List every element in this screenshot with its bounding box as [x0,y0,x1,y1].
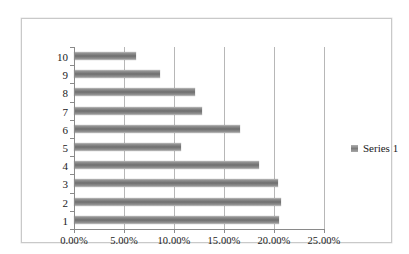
y-axis-tick [70,138,74,139]
x-axis-label-5: 5.00% [96,235,152,246]
bar-category-4[interactable] [74,161,259,169]
bar-category-10[interactable] [74,52,136,60]
x-axis-tick [274,229,275,233]
x-axis-label-10: 10.00% [146,235,202,246]
x-axis-label-15: 15.00% [196,235,252,246]
gridline-25 [324,47,325,229]
chart-frame: 10 9 8 7 6 5 4 3 2 1 0.00% 5.00% 10.00% … [21,18,392,243]
y-axis-tick [70,174,74,175]
y-axis-tick [70,193,74,194]
x-axis-label-25: 25.00% [296,235,352,246]
y-axis-label-8: 8 [42,87,68,99]
y-axis-label-1: 1 [42,215,68,227]
y-axis-tick [70,156,74,157]
y-axis-tick [70,83,74,84]
y-axis-label-5: 5 [42,142,68,154]
bar-category-8[interactable] [74,88,195,96]
bar-category-3[interactable] [74,179,278,187]
y-axis-label-10: 10 [42,51,68,63]
y-axis-tick [70,211,74,212]
x-axis-label-0: 0.00% [46,235,102,246]
y-axis-tick [70,47,74,48]
y-axis-label-6: 6 [42,124,68,136]
legend[interactable]: Series 1 [351,142,398,154]
y-axis-label-4: 4 [42,160,68,172]
y-axis-label-9: 9 [42,69,68,81]
x-axis-tick [324,229,325,233]
y-axis-label-7: 7 [42,106,68,118]
bar-category-9[interactable] [74,70,160,78]
bar-category-6[interactable] [74,125,240,133]
y-axis-tick [70,102,74,103]
y-axis-tick [70,229,74,230]
bar-category-5[interactable] [74,143,181,151]
plot-area [74,47,325,229]
x-axis-tick [74,229,75,233]
x-axis-tick [124,229,125,233]
y-axis-tick [70,120,74,121]
legend-swatch-series-1 [351,145,358,152]
y-axis-label-2: 2 [42,197,68,209]
x-axis-tick [224,229,225,233]
y-axis-label-3: 3 [42,178,68,190]
y-axis-tick [70,65,74,66]
x-axis-label-20: 20.00% [246,235,302,246]
value-axis-line [74,47,75,229]
legend-label-series-1: Series 1 [363,142,398,154]
bar-category-1[interactable] [74,216,279,224]
bar-category-2[interactable] [74,198,281,206]
x-axis-tick [174,229,175,233]
category-axis-labels: 10 9 8 7 6 5 4 3 2 1 [40,47,68,229]
bar-category-7[interactable] [74,107,202,115]
category-axis-line [74,229,325,230]
